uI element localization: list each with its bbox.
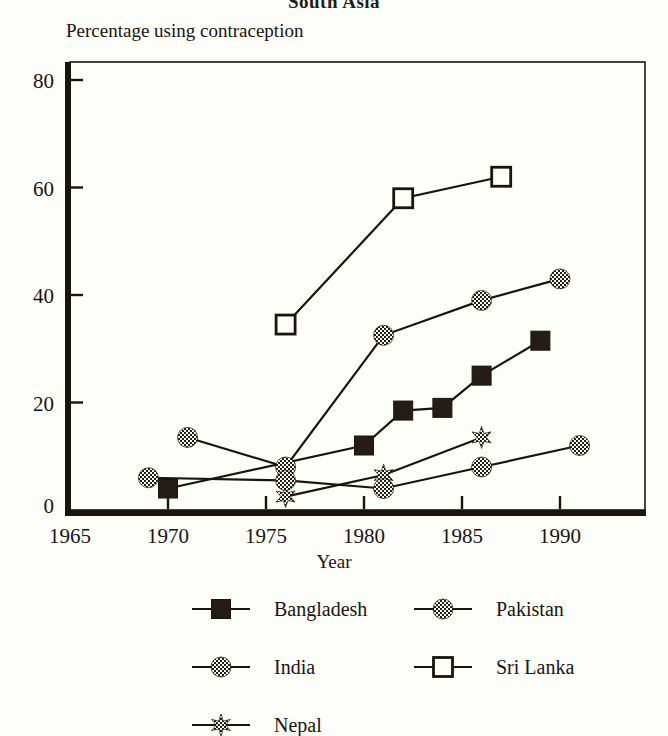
- svg-text:1985: 1985: [441, 524, 483, 545]
- checkered-star-icon: [190, 712, 252, 736]
- legend-item-india[interactable]: India: [190, 652, 315, 682]
- svg-text:1990: 1990: [539, 524, 581, 545]
- series-sri-lanka: [276, 167, 511, 334]
- chart-tick-labels: 020406080196519701975198019851990: [33, 69, 581, 545]
- svg-text:80: 80: [33, 69, 54, 93]
- chart-page: South Asia Percentage using contraceptio…: [0, 0, 668, 736]
- chart-series-group: [138, 167, 589, 507]
- legend-label: Nepal: [274, 714, 322, 736]
- legend-item-pakistan[interactable]: Pakistan: [412, 594, 564, 624]
- svg-text:1980: 1980: [343, 524, 385, 545]
- legend-label: Pakistan: [496, 598, 564, 621]
- legend-item-bangladesh[interactable]: Bangladesh: [190, 594, 367, 624]
- svg-text:0: 0: [44, 494, 55, 518]
- svg-text:1970: 1970: [147, 524, 189, 545]
- legend-label: Bangladesh: [274, 598, 367, 621]
- checkered-circle-icon: [190, 654, 252, 680]
- svg-text:1975: 1975: [245, 524, 287, 545]
- legend-item-nepal[interactable]: Nepal: [190, 710, 322, 736]
- filled-square-icon: [190, 596, 252, 622]
- x-axis-label: Year: [0, 551, 668, 573]
- svg-text:1965: 1965: [49, 524, 91, 545]
- legend-label: India: [274, 656, 315, 679]
- chart-legend: BangladeshPakistanIndiaSri LankaNepal: [0, 586, 668, 736]
- legend-label: Sri Lanka: [496, 656, 574, 679]
- svg-text:60: 60: [33, 177, 54, 201]
- svg-text:40: 40: [33, 284, 54, 308]
- checkered-circle-icon: [412, 596, 474, 622]
- series-bangladesh: [159, 331, 550, 498]
- legend-item-sri-lanka[interactable]: Sri Lanka: [412, 652, 574, 682]
- svg-text:20: 20: [33, 392, 54, 416]
- chart-plot-area: 020406080196519701975198019851990: [0, 0, 668, 545]
- open-square-icon: [412, 654, 474, 680]
